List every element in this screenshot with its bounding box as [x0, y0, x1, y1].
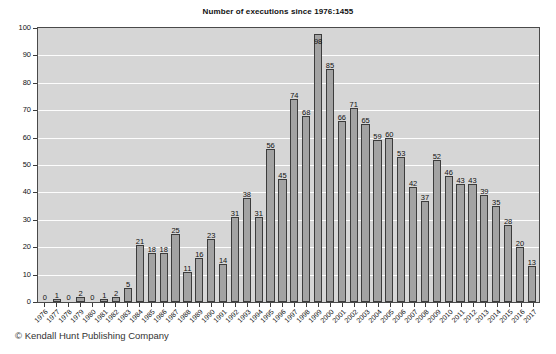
bar-value-label: 31: [255, 209, 263, 218]
bar-slot: 0: [63, 28, 75, 302]
x-tick-mark: [461, 303, 462, 307]
bar[interactable]: 31: [255, 217, 263, 302]
bar-value-label: 2: [78, 289, 82, 298]
bar[interactable]: 39: [480, 195, 488, 302]
bar[interactable]: 25: [171, 234, 179, 303]
chart-title: Number of executions since 1976:1455: [0, 7, 556, 16]
bar[interactable]: 11: [183, 272, 191, 302]
bar[interactable]: 42: [409, 187, 417, 302]
bar-series: 0102012521181825111623143138315645746898…: [38, 28, 539, 302]
bar[interactable]: 56: [266, 149, 274, 302]
bar[interactable]: 38: [243, 198, 251, 302]
x-axis-tick: 2005: [384, 303, 396, 343]
bar[interactable]: 37: [421, 201, 429, 302]
bar[interactable]: 68: [302, 116, 310, 302]
bar[interactable]: 60: [385, 138, 393, 302]
bar-slot: 98: [312, 28, 324, 302]
bar-value-label: 45: [278, 171, 286, 180]
y-tick-label: 20: [23, 242, 31, 251]
bar-value-label: 68: [302, 108, 310, 117]
x-tick-mark: [473, 303, 474, 307]
bar-slot: 37: [419, 28, 431, 302]
x-tick-mark: [187, 303, 188, 307]
bar-value-label: 60: [385, 130, 393, 139]
x-tick-mark: [44, 303, 45, 307]
bar-value-label: 66: [338, 113, 346, 122]
bar[interactable]: 5: [124, 288, 132, 302]
bar[interactable]: 23: [207, 239, 215, 302]
bar-slot: 42: [407, 28, 419, 302]
y-axis-tick: 90: [0, 55, 37, 56]
bar-slot: 59: [372, 28, 384, 302]
y-tick-label: 100: [18, 23, 31, 32]
bar[interactable]: 45: [278, 179, 286, 302]
bar-slot: 43: [455, 28, 467, 302]
bar[interactable]: 35: [492, 206, 500, 302]
bar-value-label: 20: [516, 239, 524, 248]
bar[interactable]: 85: [326, 69, 334, 302]
y-tick-label: 90: [23, 50, 31, 59]
bar[interactable]: 43: [456, 184, 464, 302]
bar-slot: 45: [277, 28, 289, 302]
x-tick-mark: [139, 303, 140, 307]
x-tick-mark: [211, 303, 212, 307]
bar[interactable]: 43: [468, 184, 476, 302]
bar-value-label: 35: [492, 198, 500, 207]
bar[interactable]: 66: [338, 121, 346, 302]
bar-value-label: 1: [55, 291, 59, 300]
bar-slot: 18: [146, 28, 158, 302]
y-axis-tick: 70: [0, 110, 37, 111]
bar[interactable]: 31: [231, 217, 239, 302]
bar[interactable]: 53: [397, 157, 405, 302]
y-tick-label: 40: [23, 187, 31, 196]
bar-value-label: 1: [102, 291, 106, 300]
bar-slot: 5: [122, 28, 134, 302]
bar[interactable]: 20: [516, 247, 524, 302]
bar[interactable]: 52: [433, 160, 441, 303]
x-tick-mark: [354, 303, 355, 307]
bar[interactable]: 46: [445, 176, 453, 302]
bar[interactable]: 1: [100, 299, 108, 302]
bar[interactable]: 18: [148, 253, 156, 302]
bar-slot: 1: [98, 28, 110, 302]
bar[interactable]: 14: [219, 264, 227, 302]
x-tick-mark: [127, 303, 128, 307]
y-tick-label: 10: [23, 270, 31, 279]
y-axis-tick: 10: [0, 275, 37, 276]
copyright-notice: © Kendall Hunt Publishing Company: [15, 330, 169, 341]
x-tick-mark: [425, 303, 426, 307]
bar-slot: 20: [514, 28, 526, 302]
bar-slot: 1: [51, 28, 63, 302]
bar[interactable]: 71: [350, 108, 358, 303]
chart-figure: Number of executions since 1976:1455 010…: [0, 0, 556, 354]
x-tick-mark: [509, 303, 510, 307]
bar[interactable]: 74: [290, 99, 298, 302]
bar-slot: 68: [300, 28, 312, 302]
bar-value-label: 5: [126, 280, 130, 289]
y-tick-label: 30: [23, 215, 31, 224]
bar[interactable]: 65: [361, 124, 369, 302]
bar[interactable]: 18: [160, 253, 168, 302]
bar-value-label: 39: [480, 187, 488, 196]
bar[interactable]: 28: [504, 225, 512, 302]
bar[interactable]: 59: [373, 140, 381, 302]
bar[interactable]: 98: [314, 34, 322, 303]
bar[interactable]: 16: [195, 258, 203, 302]
bar[interactable]: 1: [53, 299, 61, 302]
bar[interactable]: 13: [528, 266, 536, 302]
bar-value-label: 37: [421, 193, 429, 202]
bar-value-label: 13: [528, 258, 536, 267]
bar-value-label: 42: [409, 179, 417, 188]
bar-slot: 38: [241, 28, 253, 302]
y-axis-tick: 100: [0, 28, 37, 29]
bar-value-label: 52: [433, 152, 441, 161]
bar[interactable]: 21: [136, 245, 144, 303]
plot-area: 0102012521181825111623143138315645746898…: [37, 27, 540, 303]
x-tick-mark: [282, 303, 283, 307]
x-tick-mark: [497, 303, 498, 307]
bar[interactable]: 2: [76, 297, 84, 303]
bar[interactable]: 2: [112, 297, 120, 303]
bar-slot: 2: [110, 28, 122, 302]
bar-slot: 18: [158, 28, 170, 302]
bar-value-label: 18: [148, 245, 156, 254]
